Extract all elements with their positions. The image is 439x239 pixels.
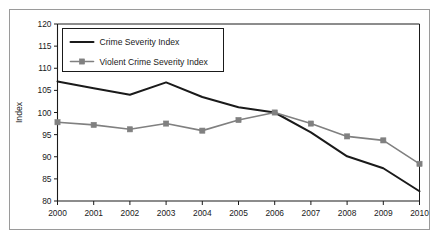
legend-label-2: Violent Crime Severity Index bbox=[100, 57, 209, 67]
series-marker-2 bbox=[272, 110, 277, 115]
series-marker-2 bbox=[308, 121, 313, 126]
series-marker-2 bbox=[417, 161, 422, 166]
x-tick-label: 2000 bbox=[48, 208, 67, 218]
legend-label-1: Crime Severity Index bbox=[100, 37, 180, 47]
y-tick-label: 105 bbox=[38, 85, 52, 95]
chart-figure: 1201151101051009590858020002001200220032… bbox=[0, 0, 439, 239]
x-tick-label: 2001 bbox=[84, 208, 103, 218]
legend-swatch-marker-2 bbox=[79, 59, 84, 64]
series-marker-2 bbox=[381, 138, 386, 143]
y-axis-title: Index bbox=[14, 101, 24, 123]
x-tick-label: 2002 bbox=[121, 208, 140, 218]
y-tick-label: 120 bbox=[38, 19, 52, 29]
x-tick-label: 2004 bbox=[193, 208, 212, 218]
y-tick-label: 100 bbox=[38, 108, 52, 118]
y-tick-label: 90 bbox=[42, 152, 52, 162]
series-marker-2 bbox=[200, 128, 205, 133]
x-tick-label: 2009 bbox=[374, 208, 393, 218]
series-line-1 bbox=[58, 82, 420, 192]
y-tick-label: 85 bbox=[42, 174, 52, 184]
series-marker-2 bbox=[55, 120, 60, 125]
y-tick-label: 95 bbox=[42, 130, 52, 140]
x-tick-label: 2006 bbox=[265, 208, 284, 218]
series-marker-2 bbox=[236, 117, 241, 122]
x-tick-label: 2010 bbox=[410, 208, 429, 218]
series-marker-2 bbox=[164, 121, 169, 126]
series-marker-2 bbox=[127, 127, 132, 132]
y-tick-label: 115 bbox=[38, 41, 52, 51]
y-tick-label: 80 bbox=[42, 196, 52, 206]
y-tick-label: 110 bbox=[38, 63, 52, 73]
series-marker-2 bbox=[91, 122, 96, 127]
x-tick-label: 2005 bbox=[229, 208, 248, 218]
x-tick-label: 2008 bbox=[338, 208, 357, 218]
x-tick-label: 2003 bbox=[157, 208, 176, 218]
series-marker-2 bbox=[345, 134, 350, 139]
line-chart: 1201151101051009590858020002001200220032… bbox=[0, 0, 439, 239]
x-tick-label: 2007 bbox=[302, 208, 321, 218]
